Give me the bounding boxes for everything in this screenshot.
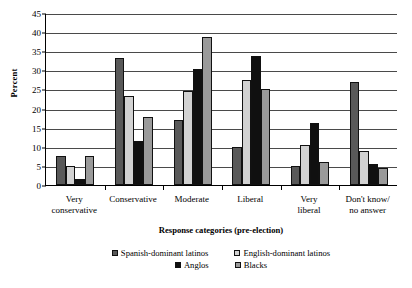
legend-label: Anglos (184, 260, 209, 270)
legend: Spanish-dominant latinosEnglish-dominant… (45, 248, 397, 272)
bar (75, 179, 85, 185)
category-label-line: Very (45, 194, 104, 205)
bar (143, 117, 153, 185)
category-label-line: Moderate (162, 194, 221, 205)
bar (66, 166, 76, 185)
bar (369, 164, 379, 185)
x-axis-title: Response categories (pre-election) (45, 225, 397, 235)
plot-area: 051015202530354045 (45, 14, 397, 186)
x-axis-category-label: Don't know/no answer (338, 194, 397, 215)
bar-group (46, 14, 105, 185)
y-axis-tick-label: 25 (32, 85, 41, 95)
bar (350, 82, 360, 185)
y-axis-tick-label: 30 (32, 66, 41, 76)
legend-swatch-icon (112, 250, 118, 256)
bar (124, 96, 134, 185)
category-label-line: Conservative (104, 194, 163, 205)
y-axis-title: Percent (9, 53, 19, 113)
bar-group (105, 14, 164, 185)
x-axis-category-label: Veryconservative (45, 194, 104, 215)
bar-group (281, 14, 340, 185)
x-axis-tick-mark (339, 185, 340, 190)
legend-label: English-dominant latinos (243, 248, 330, 258)
x-axis-category-label: Liberal (221, 194, 280, 205)
bar (242, 80, 252, 185)
x-axis-tick-mark (105, 185, 106, 190)
bar (174, 120, 184, 185)
bar (359, 151, 369, 185)
y-axis-tick-label: 5 (37, 162, 42, 172)
legend-row-top: Spanish-dominant latinosEnglish-dominant… (45, 248, 397, 258)
x-axis-tick-mark (163, 185, 164, 190)
y-axis-tick-label: 0 (37, 181, 42, 191)
bar (251, 56, 261, 185)
category-label-line: liberal (280, 205, 339, 216)
bar (310, 123, 320, 185)
legend-label: Blacks (244, 260, 267, 270)
legend-item[interactable]: Blacks (235, 260, 267, 270)
bar-group (222, 14, 281, 185)
legend-item[interactable]: Anglos (175, 260, 209, 270)
legend-item[interactable]: Spanish-dominant latinos (112, 248, 209, 258)
legend-item[interactable]: English-dominant latinos (234, 248, 330, 258)
category-label-line: Liberal (221, 194, 280, 205)
y-axis-tick-label: 20 (32, 105, 41, 115)
legend-swatch-icon (175, 262, 181, 268)
y-axis-tick-label: 40 (32, 28, 41, 38)
bar-chart: Percent 051015202530354045 Veryconservat… (0, 0, 412, 288)
legend-row-bottom: AnglosBlacks (45, 260, 397, 270)
category-label-line: Very (280, 194, 339, 205)
bar (134, 141, 144, 185)
x-axis-category-label: Conservative (104, 194, 163, 205)
bar-group (339, 14, 398, 185)
bar (183, 91, 193, 185)
category-label-line: conservative (45, 205, 104, 216)
bar (56, 156, 66, 185)
bar (202, 37, 212, 185)
x-axis-category-label: Moderate (162, 194, 221, 205)
bar (378, 168, 388, 185)
legend-swatch-icon (234, 250, 240, 256)
category-label-line: no answer (338, 205, 397, 216)
category-label-line: Don't know/ (338, 194, 397, 205)
bar (115, 58, 125, 185)
bar (300, 145, 310, 185)
legend-swatch-icon (235, 262, 241, 268)
bar (261, 89, 271, 185)
bar (319, 162, 329, 185)
bars-layer (46, 14, 397, 185)
x-axis-tick-mark (222, 185, 223, 190)
y-axis-tick-label: 10 (32, 143, 41, 153)
bar (232, 147, 242, 185)
y-axis-tick-label: 45 (32, 9, 41, 19)
legend-label: Spanish-dominant latinos (121, 248, 209, 258)
x-axis-tick-mark (281, 185, 282, 190)
y-axis-tick-mark (42, 186, 46, 187)
x-axis-category-label: Veryliberal (280, 194, 339, 215)
bar-group (163, 14, 222, 185)
y-axis-tick-label: 35 (32, 47, 41, 57)
bar (193, 69, 203, 185)
y-axis-tick-label: 15 (32, 124, 41, 134)
bar (85, 156, 95, 185)
bar (291, 166, 301, 185)
